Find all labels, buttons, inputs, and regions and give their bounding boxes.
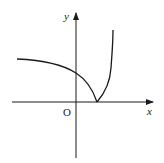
left-branch-curve (17, 59, 97, 102)
function-graph-figure: y x O (0, 0, 164, 163)
origin-label: O (63, 106, 71, 118)
y-axis-label: y (63, 10, 69, 22)
graph-canvas: y x O (0, 0, 164, 163)
right-branch-curve (97, 30, 113, 102)
x-axis-label: x (146, 105, 152, 117)
